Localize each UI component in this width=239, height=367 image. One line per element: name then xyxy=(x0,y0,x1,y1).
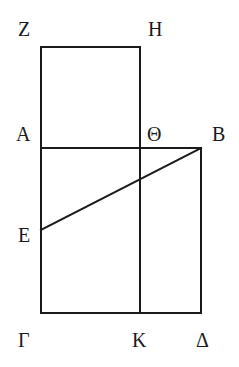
label-Z: Z xyxy=(18,18,30,40)
label-A: A xyxy=(16,123,31,145)
label-Gamma: Γ xyxy=(18,329,30,351)
segment-EB xyxy=(41,148,201,230)
label-H: H xyxy=(148,18,162,40)
label-Delta: Δ xyxy=(196,329,209,351)
label-B: B xyxy=(212,123,225,145)
label-E: E xyxy=(18,224,30,246)
geometry-diagram: Z H A Θ B E Γ K Δ xyxy=(0,0,239,367)
label-K: K xyxy=(132,329,147,351)
label-Theta: Θ xyxy=(147,123,161,145)
